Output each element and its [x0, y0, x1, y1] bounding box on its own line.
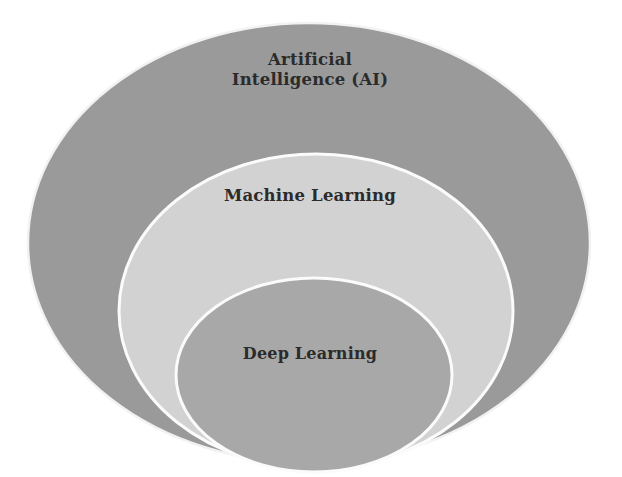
venn-svg-canvas [0, 0, 622, 477]
ellipse-deep-learning[interactable] [176, 278, 452, 472]
venn-diagram: Artificial Intelligence (AI) Machine Lea… [0, 0, 622, 477]
